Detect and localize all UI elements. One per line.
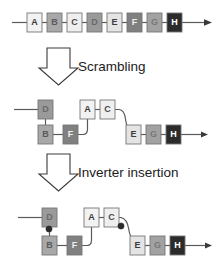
cell-label: H [171, 17, 178, 27]
cell-label: H [170, 129, 177, 139]
cell-f-inverted[interactable]: F [67, 236, 82, 255]
cell-label: G [151, 17, 158, 27]
cell-label: E [130, 129, 136, 139]
cell-label: B [46, 240, 53, 250]
arrowhead-output-inverted [205, 243, 212, 249]
cell-label: C [104, 104, 111, 114]
cell-c-original[interactable]: C [67, 13, 82, 32]
cell-d-inverted[interactable]: D [42, 208, 57, 227]
cell-label: B [42, 129, 49, 139]
cell-label: C [71, 17, 78, 27]
cell-c-scrambled[interactable]: C [100, 100, 115, 119]
cell-d-scrambled[interactable]: D [38, 100, 53, 119]
cell-label: D [42, 104, 49, 114]
cell-e-scrambled[interactable]: E [126, 125, 141, 144]
process-flow-diagram: ABCDEFGH Scrambling DBFACEGH Inverter in… [0, 0, 223, 276]
stage-scrambled-chain: DBFACEGH [14, 100, 208, 144]
inverter-bubble-c-e[interactable] [118, 223, 124, 229]
cell-label: G [150, 129, 157, 139]
cell-label: D [91, 17, 98, 27]
cell-b-original[interactable]: B [47, 13, 62, 32]
inverter-insertion-label: Inverter insertion [78, 165, 179, 180]
cell-f-scrambled[interactable]: F [63, 125, 78, 144]
cell-label: F [72, 240, 78, 250]
cell-a-original[interactable]: A [27, 13, 42, 32]
cell-h-inverted[interactable]: H [170, 236, 185, 255]
scrambling-label: Scrambling [78, 59, 146, 74]
transition-scrambling: Scrambling [39, 48, 146, 85]
wire-f-a-inverted [82, 227, 92, 246]
cell-g-original[interactable]: G [147, 13, 162, 32]
down-arrow-icon-scrambling [39, 48, 78, 85]
cell-h-original[interactable]: H [167, 13, 182, 32]
arrowhead-output-original [204, 19, 212, 26]
cell-label: F [132, 17, 138, 27]
cell-label: E [134, 240, 140, 250]
cell-e-inverted[interactable]: E [130, 236, 145, 255]
wire-f-a-scrambled [78, 119, 88, 135]
cell-a-inverted[interactable]: A [84, 208, 99, 227]
cell-c-inverted[interactable]: C [104, 208, 119, 227]
cell-b-inverted[interactable]: B [42, 236, 57, 255]
cell-d-original[interactable]: D [87, 13, 102, 32]
cell-a-scrambled[interactable]: A [80, 100, 95, 119]
cell-label: G [154, 240, 161, 250]
cell-label: H [174, 240, 181, 250]
cell-label: B [51, 17, 58, 27]
cell-label: A [88, 212, 95, 222]
cell-group-inverted: DBFACEGH [42, 208, 185, 255]
cell-e-original[interactable]: E [107, 13, 122, 32]
down-arrow-icon-inverter-insertion [39, 154, 78, 191]
transition-inverter-insertion: Inverter insertion [39, 154, 179, 191]
cell-g-inverted[interactable]: G [150, 236, 165, 255]
stage-inverted-chain: DBFACEGH [18, 208, 212, 255]
cell-label: A [84, 104, 91, 114]
cell-label: E [111, 17, 117, 27]
stage-original-chain: ABCDEFGH [12, 13, 212, 32]
cell-g-scrambled[interactable]: G [146, 125, 161, 144]
cell-b-scrambled[interactable]: B [38, 125, 53, 144]
cell-label: F [68, 129, 74, 139]
cell-h-scrambled[interactable]: H [166, 125, 181, 144]
cell-label: D [46, 212, 53, 222]
cell-label: A [31, 17, 38, 27]
cell-f-original[interactable]: F [127, 13, 142, 32]
inverter-bubble-d-b[interactable] [46, 226, 52, 232]
arrowhead-output-scrambled [201, 132, 208, 138]
cell-label: C [108, 212, 115, 222]
cell-group-scrambled: DBFACEGH [38, 100, 181, 144]
